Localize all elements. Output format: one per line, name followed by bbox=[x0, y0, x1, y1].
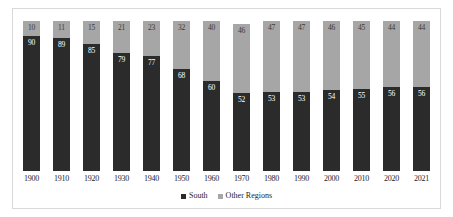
bar-segment-other-regions[interactable]: 44 bbox=[413, 21, 430, 87]
bar-value-label: 47 bbox=[293, 23, 310, 32]
x-axis-tick-1900: 1900 bbox=[23, 173, 40, 187]
bar-value-label: 55 bbox=[353, 91, 370, 100]
bar-value-label: 53 bbox=[263, 94, 280, 103]
bar-segment-south[interactable]: 60 bbox=[203, 81, 220, 171]
bar-value-label: 21 bbox=[113, 23, 130, 32]
bar-value-label: 53 bbox=[293, 94, 310, 103]
bar-value-label: 56 bbox=[413, 89, 430, 98]
x-axis-tick-1950: 1950 bbox=[173, 173, 190, 187]
bar-segment-other-regions[interactable]: 44 bbox=[383, 21, 400, 87]
bar-group[interactable]: 4555 bbox=[353, 21, 370, 171]
bar-group[interactable]: 4654 bbox=[323, 21, 340, 171]
bar-segment-other-regions[interactable]: 45 bbox=[353, 21, 370, 89]
bar-value-label: 56 bbox=[383, 89, 400, 98]
bar-group[interactable]: 4456 bbox=[413, 21, 430, 171]
bar-value-label: 85 bbox=[83, 46, 100, 55]
x-axis-tick-1970: 1970 bbox=[233, 173, 250, 187]
legend-swatch-icon bbox=[218, 194, 223, 199]
bar-value-label: 89 bbox=[53, 40, 70, 49]
bar-group[interactable]: 4456 bbox=[383, 21, 400, 171]
legend-label: South bbox=[189, 191, 208, 201]
bar-segment-other-regions[interactable]: 46 bbox=[323, 21, 340, 90]
bar-segment-other-regions[interactable]: 47 bbox=[263, 21, 280, 92]
x-axis-tick-1940: 1940 bbox=[143, 173, 160, 187]
bar-value-label: 10 bbox=[23, 23, 40, 32]
bar-value-label: 15 bbox=[83, 23, 100, 32]
bar-segment-south[interactable]: 56 bbox=[383, 87, 400, 171]
bar-value-label: 23 bbox=[143, 23, 160, 32]
bar-value-label: 32 bbox=[173, 23, 190, 32]
bar-segment-other-regions[interactable]: 23 bbox=[143, 21, 160, 56]
bar-value-label: 44 bbox=[413, 23, 430, 32]
x-axis-tick-1990: 1990 bbox=[293, 173, 310, 187]
bar-group[interactable]: 4753 bbox=[293, 21, 310, 171]
bar-segment-south[interactable]: 77 bbox=[143, 56, 160, 172]
bar-group[interactable]: 2377 bbox=[143, 21, 160, 171]
bar-segment-other-regions[interactable]: 11 bbox=[53, 21, 70, 38]
bar-group[interactable]: 4060 bbox=[203, 21, 220, 171]
bar-segment-south[interactable]: 85 bbox=[83, 44, 100, 172]
bar-group[interactable]: 1090 bbox=[23, 21, 40, 171]
bar-value-label: 60 bbox=[203, 83, 220, 92]
bar-segment-south[interactable]: 52 bbox=[233, 93, 250, 171]
bar-value-label: 52 bbox=[233, 95, 250, 104]
bar-segment-south[interactable]: 53 bbox=[293, 92, 310, 172]
bar-value-label: 46 bbox=[323, 23, 340, 32]
bar-segment-south[interactable]: 54 bbox=[323, 90, 340, 171]
bar-group[interactable]: 4652 bbox=[233, 21, 250, 171]
bar-value-label: 47 bbox=[263, 23, 280, 32]
bar-value-label: 77 bbox=[143, 58, 160, 67]
bar-segment-south[interactable]: 90 bbox=[23, 36, 40, 171]
bar-segment-south[interactable]: 56 bbox=[413, 87, 430, 171]
bar-segment-other-regions[interactable]: 21 bbox=[113, 21, 130, 53]
bar-segment-south[interactable]: 55 bbox=[353, 89, 370, 172]
bar-segment-other-regions[interactable]: 46 bbox=[233, 24, 250, 93]
bar-segment-south[interactable]: 53 bbox=[263, 92, 280, 172]
x-axis-tick-1910: 1910 bbox=[53, 173, 70, 187]
bar-value-label: 90 bbox=[23, 38, 40, 47]
bar-group[interactable]: 4753 bbox=[263, 21, 280, 171]
bar-value-label: 79 bbox=[113, 55, 130, 64]
bar-segment-other-regions[interactable]: 40 bbox=[203, 21, 220, 81]
bar-value-label: 54 bbox=[323, 92, 340, 101]
bar-segment-other-regions[interactable]: 10 bbox=[23, 21, 40, 36]
plot-area: 1090118915852179237732684060465247534753… bbox=[23, 21, 430, 171]
x-axis-tick-1920: 1920 bbox=[83, 173, 100, 187]
bar-value-label: 40 bbox=[203, 23, 220, 32]
bar-segment-south[interactable]: 89 bbox=[53, 38, 70, 172]
bar-segment-other-regions[interactable]: 47 bbox=[293, 21, 310, 92]
chart-legend: SouthOther Regions bbox=[13, 191, 440, 201]
bar-segment-south[interactable]: 68 bbox=[173, 69, 190, 171]
x-axis-tick-2010: 2010 bbox=[353, 173, 370, 187]
bar-value-label: 68 bbox=[173, 71, 190, 80]
bar-value-label: 44 bbox=[383, 23, 400, 32]
bar-group[interactable]: 1585 bbox=[83, 21, 100, 171]
bar-group[interactable]: 2179 bbox=[113, 21, 130, 171]
bar-value-label: 45 bbox=[353, 23, 370, 32]
bar-value-label: 11 bbox=[53, 23, 70, 32]
x-axis-tick-2000: 2000 bbox=[323, 173, 340, 187]
bar-group[interactable]: 1189 bbox=[53, 21, 70, 171]
x-axis-tick-1930: 1930 bbox=[113, 173, 130, 187]
x-axis-tick-1980: 1980 bbox=[263, 173, 280, 187]
bar-segment-south[interactable]: 79 bbox=[113, 53, 130, 172]
legend-item-other[interactable]: Other Regions bbox=[218, 191, 272, 201]
bar-segment-other-regions[interactable]: 15 bbox=[83, 21, 100, 44]
legend-label: Other Regions bbox=[226, 191, 272, 201]
x-axis-tick-2021: 2021 bbox=[413, 173, 430, 187]
chart-figure: 1090118915852179237732684060465247534753… bbox=[12, 8, 441, 209]
bar-value-label: 46 bbox=[233, 26, 250, 35]
x-axis-tick-1960: 1960 bbox=[203, 173, 220, 187]
x-axis-tick-2020: 2020 bbox=[383, 173, 400, 187]
bar-group[interactable]: 3268 bbox=[173, 21, 190, 171]
x-axis-tick-labels: 1900191019201930194019501960197019801990… bbox=[23, 173, 430, 187]
legend-swatch-icon bbox=[181, 194, 186, 199]
legend-item-south[interactable]: South bbox=[181, 191, 208, 201]
bar-segment-other-regions[interactable]: 32 bbox=[173, 21, 190, 69]
